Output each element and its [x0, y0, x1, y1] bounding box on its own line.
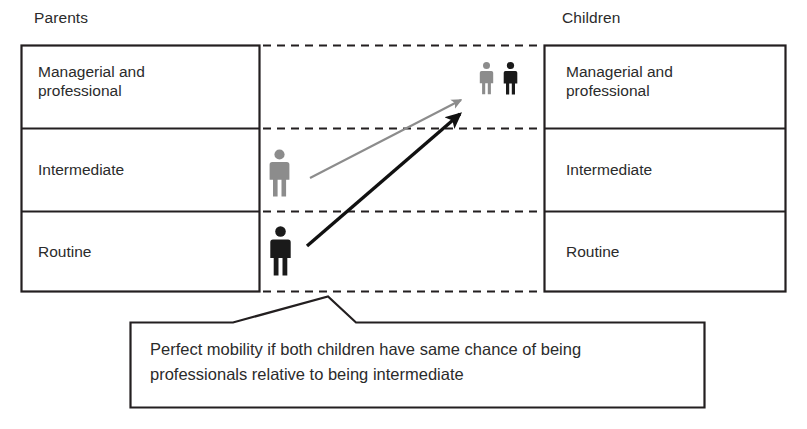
- callout-text: Perfect mobility if both children have s…: [150, 337, 690, 387]
- parents-cell-routine: Routine: [38, 242, 91, 261]
- children-cell-intermediate: Intermediate: [566, 160, 652, 179]
- mobility-arrow-routine: [307, 114, 460, 246]
- mobility-arrow-intermediate: [310, 100, 461, 178]
- children-column-title: Children: [562, 9, 621, 27]
- parents-cell-intermediate: Intermediate: [38, 160, 124, 179]
- children-cell-routine: Routine: [566, 242, 619, 261]
- mobility-guide-lines: [263, 46, 541, 292]
- parent-intermediate-figure: [270, 149, 290, 196]
- child-from-intermediate-figure: [480, 62, 493, 94]
- parent-routine-figure: [270, 226, 290, 275]
- parents-cell-managerial: Managerial and professional: [38, 62, 145, 100]
- parents-column-title: Parents: [34, 9, 88, 27]
- children-cell-managerial: Managerial and professional: [566, 62, 673, 100]
- child-from-routine-figure: [504, 62, 518, 95]
- diagram-canvas: Parents Children Managerial and professi…: [0, 0, 807, 429]
